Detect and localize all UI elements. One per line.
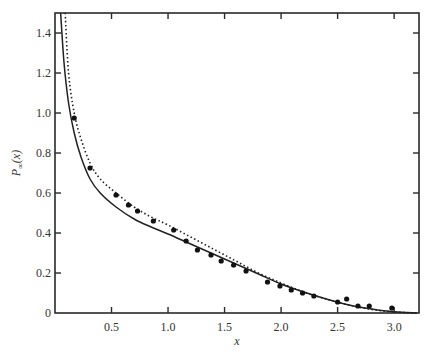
data-point [87, 165, 92, 170]
dotted-curve [65, 13, 417, 313]
data-point [171, 227, 176, 232]
x-axis-ticks: 0.51.01.52.02.53.0 [104, 13, 402, 334]
data-point [219, 258, 224, 263]
solid-curve [61, 13, 417, 313]
data-point [289, 287, 294, 292]
data-point [195, 247, 200, 252]
data-point [367, 303, 372, 308]
x-tick-label: 1.5 [217, 320, 232, 334]
data-point [231, 262, 236, 267]
data-point [72, 115, 77, 120]
y-tick-label: 0.2 [36, 266, 51, 280]
plot-frame [55, 13, 419, 313]
y-axis-ticks: 00.20.40.60.81.01.21.4 [36, 26, 419, 320]
plot-border [55, 13, 419, 313]
data-point [184, 238, 189, 243]
y-tick-label: 1.4 [36, 26, 51, 40]
svg-text:P∞(x): P∞(x) [9, 150, 25, 177]
chart: 0.51.01.52.02.53.0 00.20.40.60.81.01.21.… [0, 0, 426, 355]
data-point [243, 268, 248, 273]
series-layer [61, 13, 417, 313]
data-point [311, 293, 316, 298]
data-point [126, 202, 131, 207]
data-point [335, 299, 340, 304]
data-point [113, 192, 118, 197]
data-point [277, 283, 282, 288]
data-point [355, 303, 360, 308]
y-tick-label: 0.4 [36, 226, 51, 240]
y-axis-title: P∞(x) [9, 150, 25, 177]
data-point [344, 296, 349, 301]
y-axis-title-arg: (x) [9, 150, 23, 163]
data-point [265, 279, 270, 284]
y-tick-label: 1.0 [36, 106, 51, 120]
y-tick-label: 0 [45, 306, 51, 320]
y-tick-label: 0.6 [36, 186, 51, 200]
x-tick-label: 1.0 [161, 320, 176, 334]
x-axis-title: x [233, 334, 240, 348]
y-tick-label: 1.2 [36, 66, 51, 80]
data-point [300, 290, 305, 295]
x-tick-label: 2.0 [274, 320, 289, 334]
data-point [389, 305, 394, 310]
x-tick-label: 0.5 [104, 320, 119, 334]
x-tick-label: 3.0 [387, 320, 402, 334]
data-point [208, 252, 213, 257]
y-tick-label: 0.8 [36, 146, 51, 160]
data-point [135, 208, 140, 213]
data-point [151, 218, 156, 223]
x-tick-label: 2.5 [330, 320, 345, 334]
